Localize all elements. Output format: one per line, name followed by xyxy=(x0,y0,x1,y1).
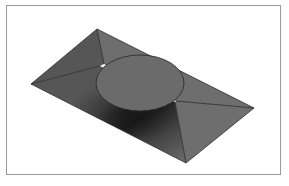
boss-top-face xyxy=(96,55,184,111)
boss xyxy=(96,55,184,111)
plate-facet-right xyxy=(175,101,254,163)
model-viewport xyxy=(0,0,289,186)
